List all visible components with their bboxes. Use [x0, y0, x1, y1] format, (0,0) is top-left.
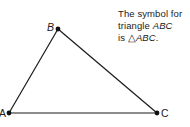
vertex-a-point: [7, 111, 12, 116]
vertex-b-point: [56, 27, 61, 32]
vertex-a-label: A: [0, 108, 6, 119]
triangle-symbol-icon: △: [128, 32, 136, 43]
vertex-b-label: B: [47, 22, 54, 33]
triangle-name: ABC: [153, 20, 173, 31]
caption-line-3: is △ABC.: [118, 32, 182, 44]
vertex-c-point: [155, 111, 160, 116]
side-ab: [9, 29, 58, 113]
caption-text: The symbol for triangle ABC is △ABC.: [118, 8, 182, 44]
caption-period: .: [156, 32, 159, 43]
caption-line-2: triangle ABC: [118, 20, 182, 32]
caption-line-3-prefix: is: [118, 32, 128, 43]
triangle-symbol-name: ABC: [136, 32, 156, 43]
caption-line-1: The symbol for: [118, 8, 182, 20]
vertex-c-label: C: [161, 108, 169, 119]
caption-line-2-prefix: triangle: [118, 20, 153, 31]
